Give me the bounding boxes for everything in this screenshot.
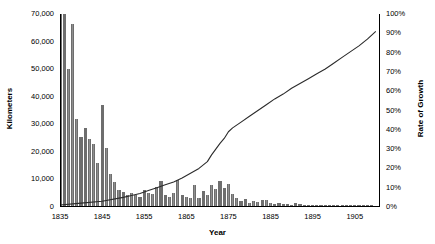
bar-highlight [114,182,115,207]
bar-highlight [106,148,107,207]
x-axis-tick: 1845 [82,213,122,221]
y-axis-title-left: Kilometers [5,74,14,144]
y-axis-right-tick: 70% [386,68,420,76]
bar-highlight [203,191,204,207]
plot-area [60,14,380,207]
bar-highlight [177,180,178,207]
y-axis-left-tick: 40,000 [8,93,54,101]
bar-highlight [220,181,221,207]
bar-highlight [93,144,94,207]
y-axis-right-tick: 0% [386,203,420,211]
x-axis-tick: 1855 [124,213,164,221]
bar-highlight [245,199,246,207]
bar-highlight [156,187,157,207]
bar-highlight [140,197,141,207]
y-axis-right-tick: 60% [386,87,420,95]
bar-highlight [72,24,73,207]
y-axis-left-tick: 10,000 [8,175,54,183]
bar-highlight [135,195,136,207]
bar-series [60,14,377,207]
bar-highlight [161,181,162,207]
bar-highlight [64,14,65,207]
bar-highlight [198,198,199,207]
y-axis-left-tick: 70,000 [8,10,54,18]
bar-highlight [148,193,149,207]
y-axis-left-tick: 0 [8,203,54,211]
bar-highlight [89,139,90,207]
y-axis-right-tick: 80% [386,49,420,57]
bar-highlight [215,189,216,207]
bar-highlight [97,163,98,207]
bar-highlight [228,184,229,207]
bar-highlight [76,119,77,207]
y-axis-right-tick: 90% [386,29,420,37]
y-axis-left-tick: 20,000 [8,148,54,156]
y-axis-right-tick: 40% [386,126,420,134]
x-axis-tick: 1895 [293,213,333,221]
y-axis-right-tick: 30% [386,145,420,153]
bar-highlight [232,194,233,207]
bar-highlight [194,185,195,207]
bar-highlight [81,137,82,207]
y-axis-right-tick: 10% [386,184,420,192]
bar-highlight [186,197,187,207]
y-axis-left-tick: 30,000 [8,120,54,128]
bar-highlight [182,195,183,207]
x-axis-tick: 1905 [335,213,375,221]
bar-highlight [262,200,263,207]
x-axis-tick: 1835 [40,213,80,221]
bar-highlight [190,198,191,207]
x-axis-title: Year [0,228,435,237]
x-axis-tick: 1875 [208,213,248,221]
y-axis-right-tick: 100% [386,10,420,18]
bar-highlight [102,105,103,207]
x-axis-tick: 1865 [166,213,206,221]
y-axis-left-tick: 60,000 [8,38,54,46]
bar-highlight [85,128,86,207]
plot-svg [60,14,380,207]
bar-highlight [207,195,208,207]
bar-highlight [236,198,237,207]
railway-growth-chart: Kilometers Rate of Growth Year 70,00060,… [0,0,435,244]
bar-highlight [169,197,170,207]
y-axis-right-tick: 50% [386,107,420,115]
y-axis-left-tick: 50,000 [8,65,54,73]
bar-highlight [123,192,124,207]
bar-highlight [173,193,174,207]
bar-highlight [110,174,111,207]
axis-lines [60,14,380,207]
bar-highlight [165,195,166,207]
bar-highlight [152,194,153,207]
bar-highlight [211,185,212,207]
y-axis-right-tick: 20% [386,164,420,172]
bar-highlight [68,69,69,207]
x-axis-tick: 1885 [251,213,291,221]
bar-highlight [224,188,225,207]
